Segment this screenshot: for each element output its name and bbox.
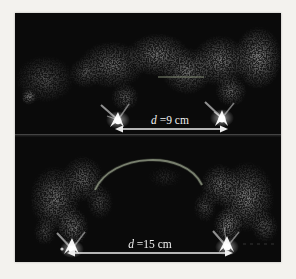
figure-page: d =9 cm (0, 0, 296, 279)
panel-photo-d9: d =9 cm (15, 13, 281, 134)
photo-figure: d =9 cm (15, 13, 281, 262)
panel-photo-d15: d =15 cm (15, 137, 281, 262)
distance-label-15cm: d =15 cm (128, 238, 172, 250)
distance-value: =15 cm (137, 238, 172, 250)
distance-label-9cm: d =9 cm (151, 114, 189, 126)
distance-symbol: d (128, 238, 134, 250)
distance-value: =9 cm (160, 114, 189, 126)
distance-symbol: d (151, 114, 157, 126)
